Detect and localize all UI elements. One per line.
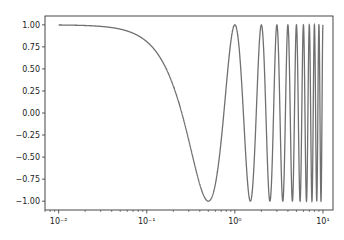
y-tick-label: 1.00: [22, 21, 40, 30]
figure-background: [0, 0, 344, 240]
y-tick-label: 0.50: [22, 65, 40, 74]
y-tick-label: −0.50: [15, 153, 40, 162]
x-tick-label: 10⁰: [228, 217, 241, 226]
y-tick-label: 0.00: [22, 109, 40, 118]
x-tick-label: 10¹: [316, 217, 329, 226]
x-tick-label: 10⁻¹: [138, 217, 156, 226]
chart: 1.000.750.500.250.00−0.25−0.50−0.75−1.00…: [0, 0, 344, 240]
y-tick-label: −0.75: [15, 175, 40, 184]
y-tick-label: −0.25: [15, 131, 40, 140]
y-tick-label: −1.00: [15, 197, 40, 206]
x-tick-label: 10⁻²: [50, 217, 68, 226]
y-tick-label: 0.25: [22, 87, 40, 96]
y-tick-label: 0.75: [22, 43, 40, 52]
